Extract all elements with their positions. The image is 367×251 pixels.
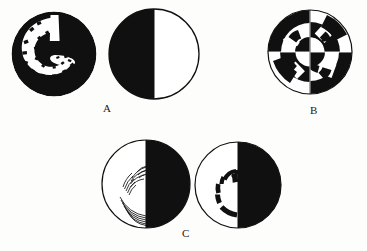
figure-label-a: A (103, 103, 111, 114)
figure-label-b: B (310, 105, 318, 116)
white-hook-stem (50, 15, 60, 41)
figure-c-right-disk (194, 141, 282, 229)
figure-plate: A B C (0, 0, 367, 251)
figure-b-disk (267, 9, 353, 95)
figure-a-left-disk (11, 11, 97, 97)
right-half-black (146, 139, 192, 229)
figure-c-left-disk (101, 139, 191, 229)
figure-label-c: C (182, 228, 190, 239)
left-half-black (108, 8, 155, 100)
right-half-black (238, 141, 283, 229)
figure-a-right-disk (108, 8, 200, 100)
arc-wedge (232, 173, 238, 183)
